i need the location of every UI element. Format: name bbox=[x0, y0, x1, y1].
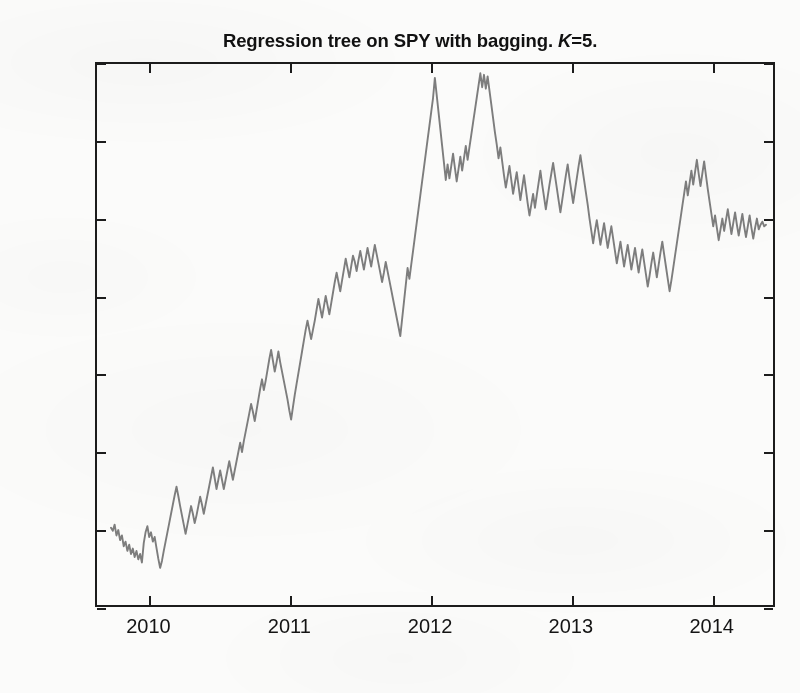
y-axis-tick bbox=[97, 452, 106, 454]
y-axis-tick bbox=[764, 608, 773, 610]
y-axis-tick bbox=[764, 297, 773, 299]
x-axis-tick bbox=[290, 596, 292, 605]
y-axis-label-container: Cumulative Returns bbox=[26, 62, 60, 607]
x-axis-tick bbox=[290, 64, 292, 73]
y-axis-tick bbox=[764, 452, 773, 454]
x-axis-tick-label: 2010 bbox=[126, 615, 171, 638]
y-axis-tick bbox=[764, 63, 773, 65]
x-axis-tick bbox=[149, 596, 151, 605]
x-axis-tick bbox=[713, 596, 715, 605]
chart-title-math-symbol: K bbox=[558, 30, 571, 51]
series-line-chart bbox=[97, 64, 773, 605]
y-axis-tick bbox=[97, 530, 106, 532]
y-axis-tick bbox=[97, 141, 106, 143]
x-axis-tick-label: 2014 bbox=[689, 615, 734, 638]
y-axis-tick bbox=[97, 63, 106, 65]
y-axis-tick bbox=[764, 219, 773, 221]
y-axis-tick bbox=[97, 219, 106, 221]
x-axis-tick bbox=[572, 64, 574, 73]
x-axis-tick bbox=[431, 596, 433, 605]
y-axis-tick bbox=[764, 374, 773, 376]
y-axis-tick bbox=[97, 374, 106, 376]
figure-root: Regression tree on SPY with bagging. K=5… bbox=[0, 0, 800, 693]
x-axis-tick-label: 2013 bbox=[549, 615, 594, 638]
y-axis-tick bbox=[97, 297, 106, 299]
plot-area bbox=[95, 62, 775, 607]
x-axis-tick bbox=[713, 64, 715, 73]
chart-title-prefix: Regression tree on SPY with bagging. bbox=[223, 30, 558, 51]
y-axis-tick bbox=[764, 141, 773, 143]
y-axis-tick bbox=[97, 608, 106, 610]
x-axis-tick bbox=[431, 64, 433, 73]
x-axis-tick bbox=[572, 596, 574, 605]
x-axis-tick-label: 2012 bbox=[408, 615, 453, 638]
cumulative-returns-line bbox=[111, 73, 766, 568]
chart-title-suffix: =5. bbox=[571, 30, 597, 51]
x-axis-tick-label: 2011 bbox=[268, 615, 311, 638]
y-axis-tick bbox=[764, 530, 773, 532]
x-axis-tick bbox=[149, 64, 151, 73]
